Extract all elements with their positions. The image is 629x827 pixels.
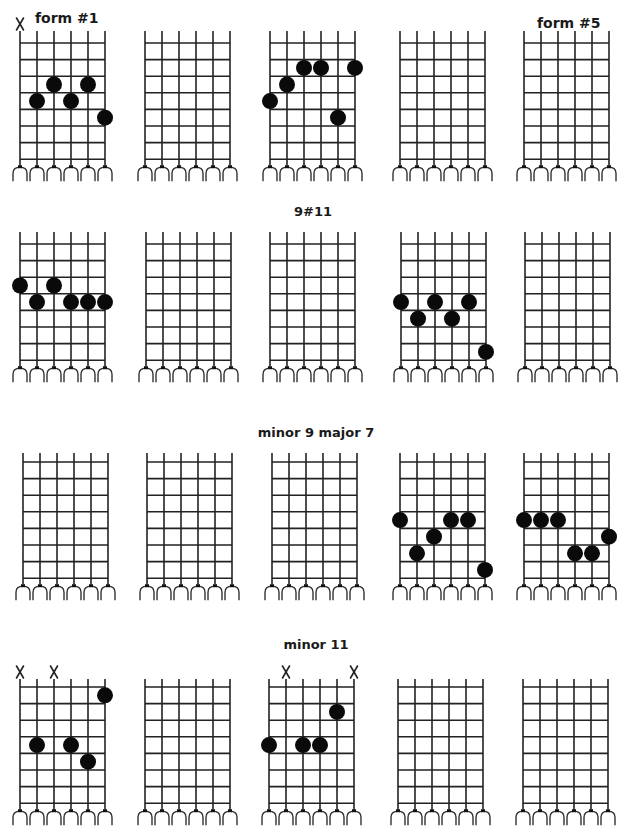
string-end-tick — [194, 165, 198, 168]
string-end-icon — [585, 586, 599, 600]
string-end-tick — [21, 584, 25, 587]
string-end-icon — [459, 811, 473, 825]
finger-dot-icon — [296, 60, 312, 76]
string-end-icon — [517, 167, 531, 181]
string-end-icon — [550, 811, 564, 825]
string-end-tick — [399, 366, 403, 369]
finger-dot-icon — [461, 294, 477, 310]
string-end-icon — [552, 368, 566, 382]
string-end-icon — [81, 811, 95, 825]
string-end-tick — [319, 366, 323, 369]
string-end-tick — [430, 809, 434, 812]
string-end-tick — [608, 366, 612, 369]
string-end-tick — [35, 366, 39, 369]
string-end-tick — [177, 809, 181, 812]
string-end-icon — [189, 167, 203, 181]
finger-dot-icon — [409, 545, 425, 561]
string-end-tick — [211, 809, 215, 812]
string-end-icon — [156, 368, 170, 382]
string-end-tick — [396, 809, 400, 812]
string-end-icon — [478, 167, 492, 181]
finger-dot-icon — [392, 512, 408, 528]
string-end-icon — [262, 811, 276, 825]
string-end-tick — [284, 809, 288, 812]
finger-dot-icon — [29, 294, 45, 310]
finger-dot-icon — [279, 77, 295, 93]
string-end-tick — [589, 809, 593, 812]
string-end-tick — [287, 584, 291, 587]
string-end-icon — [517, 586, 531, 600]
string-end-tick — [160, 809, 164, 812]
string-end-tick — [539, 584, 543, 587]
string-end-tick — [145, 584, 149, 587]
string-end-icon — [314, 167, 328, 181]
string-end-tick — [35, 809, 39, 812]
string-end-tick — [35, 165, 39, 168]
chord-diagram-form-1 — [13, 666, 113, 825]
string-end-tick — [162, 584, 166, 587]
string-end-tick — [103, 809, 107, 812]
chord-diagram-form-3 — [262, 31, 363, 181]
string-end-icon — [444, 586, 458, 600]
string-end-tick — [557, 366, 561, 369]
string-end-icon — [297, 167, 311, 181]
x-mark-icon — [283, 666, 290, 678]
string-end-tick — [590, 165, 594, 168]
string-end-icon — [586, 368, 600, 382]
string-end-tick — [178, 366, 182, 369]
finger-dot-icon — [312, 737, 328, 753]
string-end-icon — [263, 368, 277, 382]
string-end-tick — [484, 366, 488, 369]
finger-dot-icon — [80, 77, 96, 93]
string-end-tick — [538, 809, 542, 812]
chord-diagram-form-1 — [13, 18, 113, 181]
string-end-tick — [196, 584, 200, 587]
string-end-icon — [569, 368, 583, 382]
string-end-tick — [302, 165, 306, 168]
chord-diagram-form-2 — [138, 31, 237, 181]
string-end-tick — [607, 584, 611, 587]
string-end-icon — [535, 368, 549, 382]
finger-dot-icon — [97, 110, 113, 126]
string-end-icon — [138, 811, 152, 825]
string-end-icon — [551, 586, 565, 600]
chord-diagram-form-5 — [516, 679, 615, 825]
string-end-tick — [336, 366, 340, 369]
finger-dot-icon — [313, 60, 329, 76]
finger-dot-icon — [584, 545, 600, 561]
string-end-icon — [191, 586, 205, 600]
x-mark-icon — [17, 18, 24, 30]
finger-dot-icon — [97, 294, 113, 310]
string-end-icon — [84, 586, 98, 600]
chord-diagram-form-4 — [393, 31, 492, 181]
string-end-tick — [540, 366, 544, 369]
string-end-icon — [224, 368, 238, 382]
chord-row-1 — [12, 232, 617, 382]
string-end-tick — [321, 584, 325, 587]
chord-diagram-form-3 — [261, 666, 361, 825]
string-end-icon — [157, 586, 171, 600]
string-end-icon — [263, 167, 277, 181]
string-end-icon — [348, 368, 362, 382]
string-end-tick — [86, 366, 90, 369]
finger-dot-icon — [444, 311, 460, 327]
finger-dot-icon — [29, 737, 45, 753]
string-end-tick — [195, 366, 199, 369]
string-end-tick — [338, 584, 342, 587]
string-end-tick — [556, 165, 560, 168]
string-end-icon — [516, 811, 530, 825]
finger-dot-icon — [330, 110, 346, 126]
string-end-icon — [410, 586, 424, 600]
string-end-icon — [444, 167, 458, 181]
string-end-tick — [522, 584, 526, 587]
string-end-tick — [52, 165, 56, 168]
string-end-icon — [410, 167, 424, 181]
string-end-icon — [206, 167, 220, 181]
chord-diagram-form-2 — [139, 232, 238, 382]
string-end-tick — [556, 584, 560, 587]
string-end-icon — [13, 811, 27, 825]
string-end-icon — [189, 811, 203, 825]
string-end-tick — [413, 809, 417, 812]
string-end-icon — [13, 368, 27, 382]
finger-dot-icon — [12, 278, 28, 294]
